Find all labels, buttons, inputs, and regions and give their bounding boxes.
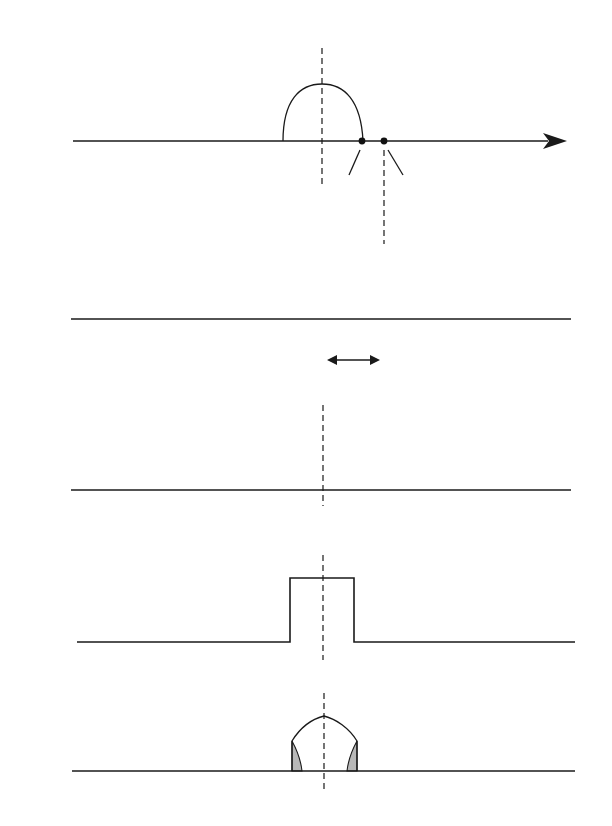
fs-leader-line (388, 150, 403, 175)
arrow-left-icon (327, 355, 337, 365)
panel-c (71, 405, 571, 506)
fmax-marker (359, 138, 366, 145)
lowpass-filter-response (77, 578, 575, 642)
fmax-leader-line (349, 150, 360, 175)
aliased-region-left (292, 741, 302, 771)
arrow-right-icon (370, 355, 380, 365)
figure-canvas (0, 0, 612, 826)
panel-b (0, 0, 571, 365)
fs-marker (381, 138, 388, 145)
sampling-aliasing-figure (0, 0, 612, 826)
panel-e (72, 693, 575, 793)
aliased-region-right (347, 741, 357, 771)
panel-a (0, 0, 567, 244)
baseband-spectrum (283, 84, 363, 141)
panel-d (77, 555, 575, 660)
